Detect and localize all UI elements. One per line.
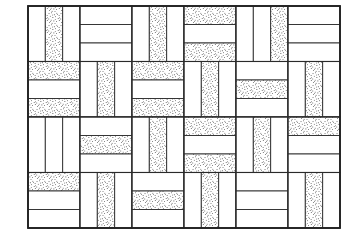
- tile-strip-stippled: [305, 62, 322, 118]
- tile-strip-plain: [236, 210, 288, 229]
- tile-strip-plain: [184, 136, 236, 155]
- brick-group-horizontal-r2c5: [288, 117, 340, 173]
- tile-strip-plain: [63, 117, 80, 173]
- brick-group-vertical-r3c3: [184, 173, 236, 229]
- tile-strip-plain: [28, 210, 80, 229]
- tile-strip-plain: [288, 173, 305, 229]
- brick-group-horizontal-r1c0: [28, 62, 80, 118]
- brick-group-horizontal-r2c3: [184, 117, 236, 173]
- tile-strip-plain: [63, 6, 80, 62]
- tile-strip-stippled: [132, 62, 184, 81]
- tile-strip-plain: [184, 62, 201, 118]
- tile-strip-plain: [236, 99, 288, 118]
- brick-group-horizontal-r1c4: [236, 62, 288, 118]
- tile-strip-plain: [288, 62, 305, 118]
- tile-strip-plain: [236, 62, 288, 81]
- tile-strip-stippled: [132, 191, 184, 210]
- tile-strip-stippled: [288, 117, 340, 136]
- tile-strip-plain: [132, 117, 149, 173]
- tile-strip-stippled: [184, 6, 236, 25]
- tile-strip-stippled: [28, 173, 80, 192]
- tile-strip-plain: [167, 6, 184, 62]
- tile-strip-plain: [28, 117, 45, 173]
- brick-group-vertical-r2c2: [132, 117, 184, 173]
- brick-group-vertical-r0c4: [236, 6, 288, 62]
- tile-strip-plain: [236, 117, 253, 173]
- tile-strip-stippled: [80, 136, 132, 155]
- tile-strip-stippled: [253, 117, 270, 173]
- tile-strip-plain: [115, 173, 132, 229]
- brick-group-vertical-r3c5: [288, 173, 340, 229]
- tile-strip-plain: [28, 80, 80, 99]
- brick-group-vertical-r1c3: [184, 62, 236, 118]
- tiling-pattern-diagram: [0, 0, 363, 248]
- tile-strip-plain: [219, 62, 236, 118]
- tile-strip-stippled: [28, 99, 80, 118]
- tile-strip-stippled: [305, 173, 322, 229]
- brick-group-horizontal-r3c2: [132, 173, 184, 229]
- blocks-layer: [28, 6, 340, 228]
- tile-strip-plain: [219, 173, 236, 229]
- tile-strip-plain: [28, 6, 45, 62]
- tile-strip-plain: [184, 25, 236, 44]
- tile-strip-plain: [236, 191, 288, 210]
- brick-group-horizontal-r0c1: [80, 6, 132, 62]
- tile-strip-plain: [132, 6, 149, 62]
- tile-strip-plain: [132, 80, 184, 99]
- brick-group-horizontal-r0c3: [184, 6, 236, 62]
- tile-strip-stippled: [149, 6, 166, 62]
- tile-strip-plain: [80, 6, 132, 25]
- brick-group-horizontal-r3c4: [236, 173, 288, 229]
- tile-strip-plain: [288, 6, 340, 25]
- tile-strip-plain: [236, 6, 253, 62]
- tile-strip-stippled: [184, 117, 236, 136]
- brick-group-vertical-r2c4: [236, 117, 288, 173]
- tile-strip-plain: [80, 117, 132, 136]
- tile-strip-plain: [80, 43, 132, 62]
- brick-group-horizontal-r3c0: [28, 173, 80, 229]
- tile-strip-plain: [80, 173, 97, 229]
- tile-strip-plain: [236, 173, 288, 192]
- tile-strip-plain: [288, 43, 340, 62]
- tile-strip-stippled: [201, 173, 218, 229]
- tile-strip-stippled: [97, 62, 114, 118]
- tile-strip-plain: [167, 117, 184, 173]
- brick-group-horizontal-r1c2: [132, 62, 184, 118]
- tile-strip-stippled: [236, 80, 288, 99]
- tile-strip-stippled: [45, 6, 62, 62]
- brick-group-vertical-r1c1: [80, 62, 132, 118]
- tile-strip-plain: [323, 173, 340, 229]
- tile-strip-plain: [288, 136, 340, 155]
- tile-strip-plain: [80, 154, 132, 173]
- brick-group-horizontal-r0c5: [288, 6, 340, 62]
- tile-strip-plain: [45, 117, 62, 173]
- tile-strip-plain: [80, 62, 97, 118]
- tile-strip-plain: [132, 173, 184, 192]
- tile-strip-stippled: [271, 6, 288, 62]
- tile-strip-stippled: [149, 117, 166, 173]
- tile-strip-stippled: [97, 173, 114, 229]
- tile-strip-plain: [323, 62, 340, 118]
- brick-group-vertical-r3c1: [80, 173, 132, 229]
- tile-strip-stippled: [132, 99, 184, 118]
- brick-group-vertical-r0c2: [132, 6, 184, 62]
- tile-strip-stippled: [184, 43, 236, 62]
- tile-strip-stippled: [28, 62, 80, 81]
- tile-strip-plain: [184, 173, 201, 229]
- tile-strip-stippled: [201, 62, 218, 118]
- tile-strip-plain: [288, 25, 340, 44]
- tile-strip-plain: [253, 6, 270, 62]
- tile-strip-plain: [28, 191, 80, 210]
- tile-strip-plain: [288, 154, 340, 173]
- tile-strip-plain: [271, 117, 288, 173]
- figure-root: Basketweave parquet tiling pattern Recta…: [0, 0, 363, 248]
- brick-group-horizontal-r2c1: [80, 117, 132, 173]
- brick-group-vertical-r1c5: [288, 62, 340, 118]
- brick-group-vertical-r2c0: [28, 117, 80, 173]
- tile-strip-plain: [132, 210, 184, 229]
- tile-strip-plain: [80, 25, 132, 44]
- tile-strip-plain: [115, 62, 132, 118]
- tile-strip-stippled: [184, 154, 236, 173]
- brick-group-vertical-r0c0: [28, 6, 80, 62]
